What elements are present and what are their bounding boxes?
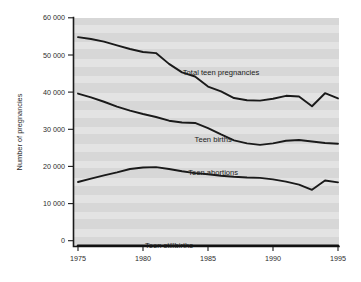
plot-background <box>73 18 339 246</box>
x-tick-label: 1980 <box>135 254 151 263</box>
x-axis-tick-labels: 1975 1980 1985 1990 1995 <box>70 254 346 263</box>
series-label-total-teen-pregnancies: Total teen pregnancies <box>183 68 260 77</box>
y-axis-tick-labels: 60 000 50 000 40 000 30 000 20 000 10 00… <box>43 13 65 245</box>
y-tick-label: 50 000 <box>43 51 65 60</box>
y-tick-label: 60 000 <box>43 13 65 22</box>
chart-figure: 60 000 50 000 40 000 30 000 20 000 10 00… <box>0 0 361 282</box>
y-tick-label: 10 000 <box>43 199 65 208</box>
line-chart-svg: 60 000 50 000 40 000 30 000 20 000 10 00… <box>0 0 361 282</box>
series-label-teen-abortions: Teen abortions <box>188 168 238 177</box>
y-tick-label: 40 000 <box>43 88 65 97</box>
x-tick-label: 1985 <box>200 254 216 263</box>
series-label-teen-births: Teen births <box>195 135 232 144</box>
y-axis-ticks <box>68 18 73 241</box>
y-tick-label: 0 <box>61 236 65 245</box>
series-label-teen-stillbirths: Teen stillbirths <box>145 241 193 250</box>
y-tick-label: 30 000 <box>43 125 65 134</box>
x-tick-label: 1990 <box>265 254 281 263</box>
x-tick-label: 1975 <box>70 254 86 263</box>
y-axis-title: Number of pregnancies <box>15 93 24 170</box>
y-tick-label: 20 000 <box>43 162 65 171</box>
x-tick-label: 1995 <box>330 254 346 263</box>
